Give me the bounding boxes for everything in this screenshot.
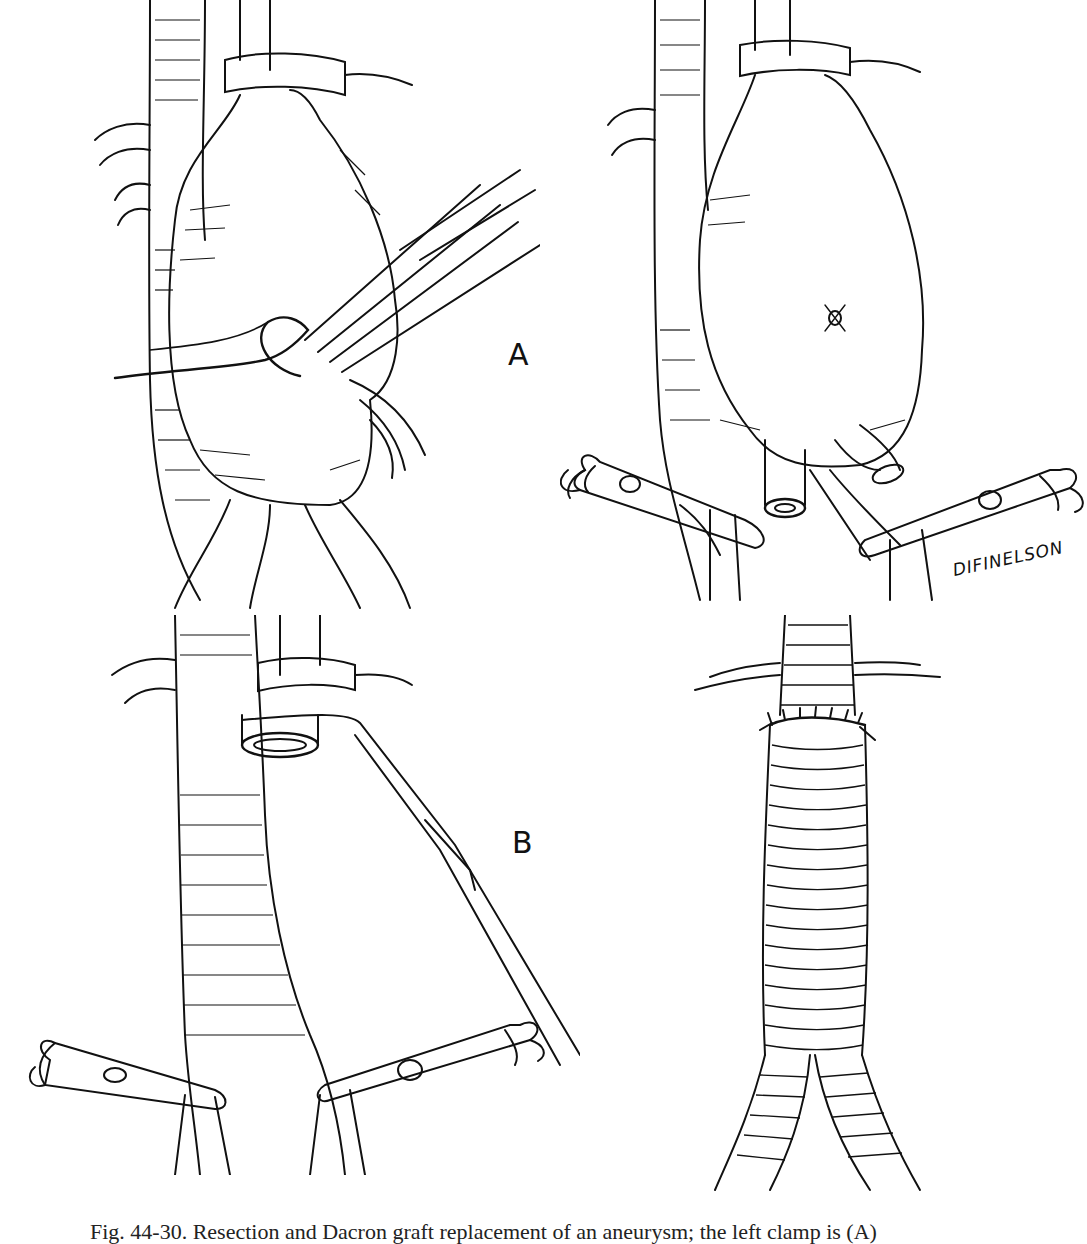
figure-caption: Fig. 44-30. Resection and Dacron graft r… <box>90 1221 1087 1243</box>
panel-graft-in-place <box>600 615 1087 1195</box>
panel-label-b: B <box>512 828 533 858</box>
panel-aorta-clamped <box>0 615 580 1175</box>
panel-aneurysm-ligature <box>0 0 540 610</box>
panel-aneurysm-clamped <box>560 0 1087 610</box>
panel-label-a: A <box>508 340 529 370</box>
